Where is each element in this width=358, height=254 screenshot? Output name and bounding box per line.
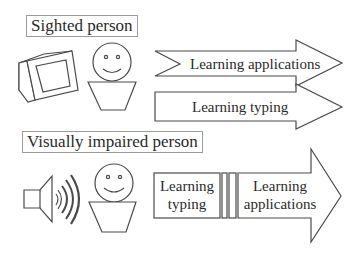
separator-bar-2 xyxy=(229,173,236,218)
stage-label-typing-line2: typing xyxy=(154,195,220,213)
arrow-label-learning-typing: Learning typing xyxy=(192,98,288,116)
sighted-person-title: Sighted person xyxy=(26,15,138,37)
person-impaired-icon xyxy=(89,164,136,232)
stage-label-typing-line1: Learning xyxy=(154,177,220,195)
impaired-person-title: Visually impaired person xyxy=(22,131,203,153)
arrow-label-learning-applications: Learning applications xyxy=(190,55,320,73)
separator-bar-1 xyxy=(222,173,227,218)
diagram-graphics xyxy=(0,0,358,254)
speaker-icon xyxy=(24,175,79,224)
monitor-icon xyxy=(19,51,78,102)
diagram: Sighted person Learning applications Lea… xyxy=(0,0,358,254)
stage-label-applications-line1: Learning xyxy=(238,177,322,195)
person-sighted-icon xyxy=(88,43,136,110)
stage-label-applications-line2: applications xyxy=(238,195,322,213)
